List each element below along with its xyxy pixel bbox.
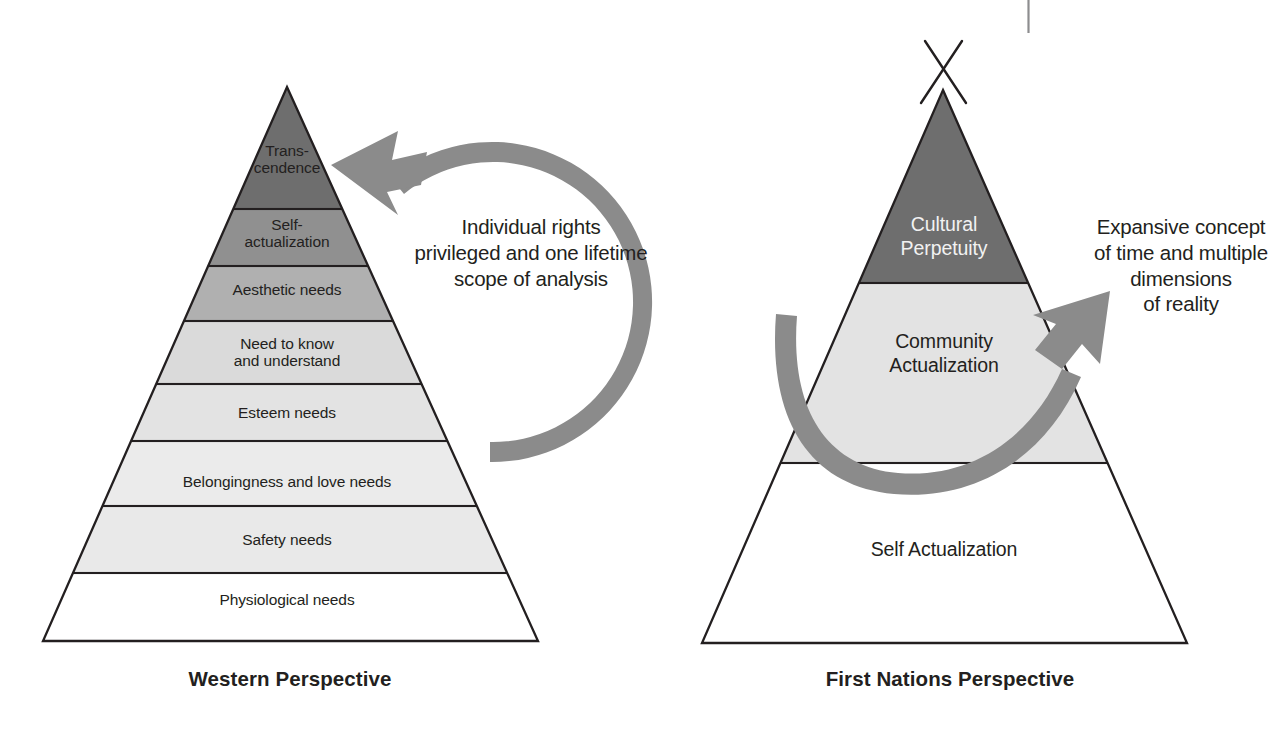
diagram-canvas: Trans- cendence Self- actualization Aest… (0, 0, 1284, 737)
left-arrowhead (331, 131, 427, 215)
page-bottom-text-fragment (8, 722, 648, 734)
western-tier-physiological (20, 572, 565, 644)
annotation-left-text: Individual rights privileged and one lif… (372, 214, 690, 291)
western-tier-safety (20, 505, 565, 573)
western-tier-transcendence (20, 70, 565, 209)
western-tier-belongingness (20, 440, 565, 506)
western-tier-esteem (20, 383, 565, 441)
diagram-svg (0, 0, 1284, 737)
annotation-right-text: Expansive concept of time and multiple d… (1078, 214, 1284, 317)
first-nations-pyramid (680, 70, 1210, 647)
western-tier-need-to-know (20, 320, 565, 384)
caption-first-nations-perspective: First Nations Perspective (790, 667, 1110, 691)
caption-western-perspective: Western Perspective (130, 667, 450, 691)
